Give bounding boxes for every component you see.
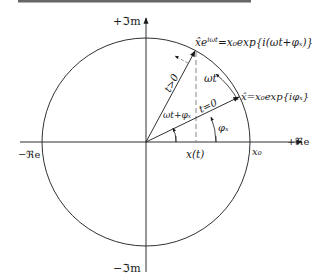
rotation-direction-icon xyxy=(175,56,188,63)
top-rule xyxy=(18,0,251,3)
diagram-canvas: +ℑm −ℑm −ℜe +ℜe x̂eiωt=x₀exp{i(ωt+φₓ)} x… xyxy=(0,0,321,280)
pos-real-label: +ℜe xyxy=(287,136,309,147)
x0-label: x₀ xyxy=(252,146,262,157)
phasor-diagram: +ℑm −ℑm −ℜe +ℜe x̂eiωt=x₀exp{i(ωt+φₓ)} x… xyxy=(0,0,321,280)
rotating-phasor xyxy=(146,51,195,142)
pos-imag-label: +ℑm xyxy=(113,15,141,28)
x-of-t-label: x(t) xyxy=(186,148,204,160)
initial-phasor xyxy=(146,97,239,142)
rotating-phasor-label: x̂eiωt=x₀exp{i(ωt+φₓ)} xyxy=(195,36,313,49)
initial-phasor-label: x̂=x₀exp{iφₓ} xyxy=(241,91,309,102)
arc-omega-t-plus-phi xyxy=(173,128,176,142)
neg-real-label: −ℜe xyxy=(18,149,40,160)
omega-t-label: ωt xyxy=(204,72,218,84)
arc-phi-x xyxy=(211,117,216,142)
neg-imag-label: −ℑm xyxy=(113,262,141,275)
phi-x-label: φₓ xyxy=(218,122,229,133)
omega-t-plus-phi-label: ωt+φₓ xyxy=(163,110,192,120)
